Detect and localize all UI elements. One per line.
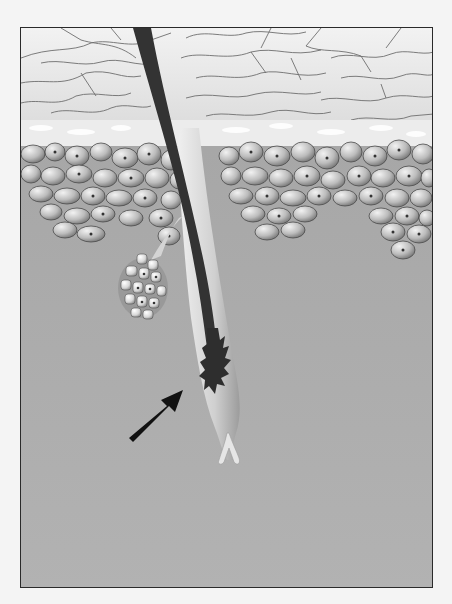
hair-follicle-illustration — [20, 27, 433, 588]
stratum-corneum-layer — [21, 28, 433, 128]
